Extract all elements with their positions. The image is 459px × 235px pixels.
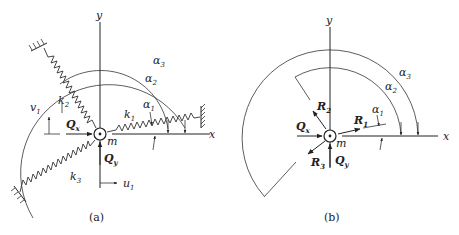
alpha1-label-a: α1 xyxy=(143,98,155,113)
mass-center-b xyxy=(329,135,332,138)
spring-k3 xyxy=(20,140,95,192)
figure-b: y x α3 α2 α1 m R1 R2 R3 Qx Qy (b) xyxy=(242,14,450,224)
alpha3-arc-a xyxy=(21,85,185,218)
figure-a: y x α3 α2 α1 k1 k2 xyxy=(11,9,216,224)
x-axis-label-b: x xyxy=(443,130,450,143)
r3-label: R3 xyxy=(310,156,325,171)
r3-line-of-action xyxy=(264,162,296,197)
r1-arrow xyxy=(338,129,360,134)
r2-line-of-action xyxy=(295,77,310,100)
alpha2-label-a: α2 xyxy=(145,72,157,87)
x-axis-label-a: x xyxy=(209,128,216,141)
k1-label: k1 xyxy=(124,108,135,123)
y-axis-label-a: y xyxy=(95,9,103,22)
mass-label-b: m xyxy=(336,137,346,150)
u1-label: u1 xyxy=(123,177,135,192)
spring-k2 xyxy=(44,48,96,128)
qx-label-a: Qx xyxy=(66,118,81,133)
k3-label: k3 xyxy=(70,170,82,185)
qy-label-b: Qy xyxy=(335,154,350,169)
r1-label: R1 xyxy=(353,114,368,129)
caption-a: (a) xyxy=(89,211,104,224)
alpha3-label-b: α3 xyxy=(399,66,411,81)
mass-label-a: m xyxy=(107,135,117,148)
r3-arrow xyxy=(308,141,325,154)
k2-label: k2 xyxy=(58,94,70,109)
r2-arrow xyxy=(313,111,326,129)
caption-b: (b) xyxy=(324,211,340,224)
v1-label: v1 xyxy=(30,101,41,116)
mass-center-a xyxy=(99,133,102,136)
y-axis-label-b: y xyxy=(325,14,333,27)
spring-k1 xyxy=(107,113,200,132)
spring-mass-diagram: y x α3 α2 α1 k1 k2 xyxy=(0,0,459,235)
alpha3-label-a: α3 xyxy=(153,54,165,69)
alpha2-label-b: α2 xyxy=(385,80,397,95)
wall-hatch-right-a xyxy=(201,104,205,128)
qy-label-a: Qy xyxy=(104,152,119,167)
alpha1-label-b: α1 xyxy=(372,103,384,118)
r2-label: R2 xyxy=(316,100,331,115)
qx-label-b: Qx xyxy=(296,120,311,135)
